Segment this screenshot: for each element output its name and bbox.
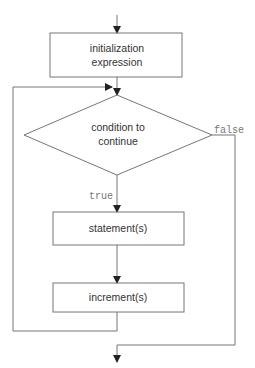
condition-label-line1: condition to — [91, 121, 145, 133]
increment-label: increment(s) — [89, 291, 147, 303]
init-label-line1: initialization — [90, 42, 144, 54]
init-box — [50, 33, 182, 77]
false-label: false — [214, 125, 244, 136]
init-label-line2: expression — [92, 56, 143, 68]
flowchart: initialization expression condition to c… — [0, 0, 255, 368]
condition-label-line2: continue — [98, 135, 138, 147]
statements-label: statement(s) — [89, 222, 147, 234]
false-branch-line — [117, 135, 235, 345]
true-label: true — [89, 191, 113, 202]
